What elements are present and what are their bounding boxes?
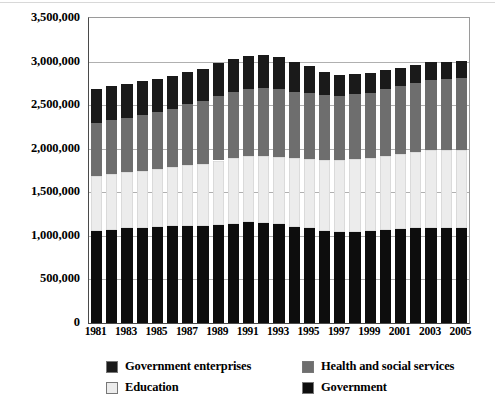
bar-group [91,18,102,323]
bar-segment [456,61,467,78]
bar-group [410,18,421,323]
bar-segment [441,79,452,150]
bar-segment [425,150,436,227]
bar-group [365,18,376,323]
x-tick-label: 1993 [267,325,289,337]
bar-segment [167,167,178,226]
bar-segment [228,224,239,323]
bar-segment [334,160,345,232]
bar-group [456,18,467,323]
bar-segment [182,165,193,226]
bar-segment [289,158,300,227]
bar-segment [365,231,376,323]
x-tick-label: 2003 [419,325,441,337]
bar-segment [319,72,330,95]
bar-segment [121,118,132,172]
y-tick-label: 0 [74,315,80,330]
bar-segment [197,69,208,101]
bar-segment [137,228,148,323]
bar-segment [456,78,467,150]
bar-segment [91,123,102,176]
bar-group [258,18,269,323]
bar-group [304,18,315,323]
bar-segment [395,86,406,154]
legend-item: Government [302,380,492,395]
bar-segment [228,59,239,92]
bar-segment [319,95,330,160]
bar-segment [167,226,178,323]
bar-segment [182,104,193,165]
x-tick-label: 1981 [85,325,107,337]
bar-segment [441,228,452,323]
bar-group [441,18,452,323]
bar-segment [243,156,254,222]
chart-legend: Government enterprisesHealth and social … [106,356,436,398]
bar-segment [441,62,452,79]
bar-segment [304,228,315,323]
bar-group [380,18,391,323]
legend-swatch-icon [302,382,314,394]
x-tick-label: 1987 [176,325,198,337]
bar-segment [137,81,148,115]
bar-segment [182,72,193,105]
bar-segment [121,228,132,323]
bar-segment [182,226,193,323]
y-tick-label: 3,000,000 [31,53,80,68]
bar-segment [304,159,315,229]
bar-segment [289,227,300,323]
scan-edge-artifact [0,2,495,3]
bar-segment [273,224,284,323]
y-axis: 0500,0001,000,0001,500,0002,000,0002,500… [0,17,84,322]
legend-label: Education [125,380,179,395]
bar-segment [167,109,178,167]
bar-segment [137,171,148,228]
bar-segment [228,158,239,224]
x-tick-label: 1999 [358,325,380,337]
x-tick-label: 1985 [145,325,167,337]
legend-swatch-icon [302,361,314,373]
bar-segment [289,62,300,93]
bar-segment [258,88,269,156]
y-tick-label: 1,000,000 [31,227,80,242]
bar-segment [349,159,360,232]
legend-item: Government enterprises [106,359,302,374]
stacked-bar-chart-figure: 0500,0001,000,0001,500,0002,000,0002,500… [0,0,495,408]
bar-group [152,18,163,323]
bar-segment [197,164,208,227]
legend-swatch-icon [106,361,118,373]
legend-item: Education [106,380,302,395]
bar-segment [334,75,345,96]
legend-label: Government [321,380,387,395]
bar-group [425,18,436,323]
bar-segment [228,92,239,158]
bar-segment [319,231,330,323]
bar-segment [152,112,163,169]
bar-segment [106,230,117,323]
bar-segment [334,96,345,160]
bar-segment [334,232,345,323]
bar-segment [304,66,315,93]
bar-segment [137,115,148,171]
x-axis: 1981198319851987198919911993199519971999… [88,325,468,341]
bar-segment [410,83,421,152]
bar-segment [167,76,178,109]
x-tick-label: 1989 [206,325,228,337]
bar-segment [197,101,208,164]
bar-group [213,18,224,323]
bar-segment [213,63,224,96]
y-tick-label: 500,000 [40,271,80,286]
bar-segment [349,232,360,324]
bar-group [228,18,239,323]
bar-segment [197,226,208,323]
x-tick-label: 1997 [328,325,350,337]
bar-group [395,18,406,323]
bar-segment [106,86,117,120]
bar-segment [91,176,102,231]
bar-segment [213,225,224,323]
bar-group [167,18,178,323]
legend-label: Health and social services [321,359,454,374]
bar-segment [258,223,269,323]
bar-segment [410,228,421,323]
bar-segment [258,55,269,88]
bar-segment [441,150,452,228]
